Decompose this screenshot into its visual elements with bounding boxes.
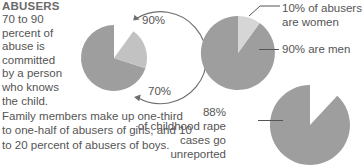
label-70-percent: 70% — [148, 85, 171, 98]
pie-slice-unreported — [270, 85, 350, 165]
women-leader-line — [249, 6, 280, 16]
label-men: 90% are men — [282, 43, 350, 56]
gender-pie-chart — [201, 6, 280, 90]
unreported-pie-chart — [258, 85, 350, 165]
label-women-line1: 10% of abusers — [282, 2, 362, 15]
pie-slice-men — [201, 16, 275, 90]
label-88-percent: 88% — [203, 106, 226, 119]
label-90-percent: 90% — [142, 14, 165, 27]
label-unreported-text: of childhood rape cases go unreported — [126, 119, 226, 161]
label-women-line2: are women — [282, 16, 339, 29]
arrowhead-icon — [134, 95, 141, 102]
